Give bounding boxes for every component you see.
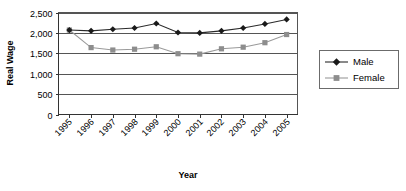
data-point-female: [197, 52, 202, 57]
x-tick-label: 1996: [75, 117, 96, 138]
y-axis-ticks: 05001,0001,5002,0002,500: [30, 9, 59, 121]
data-point-female: [219, 46, 224, 51]
x-tick-label: 2000: [162, 117, 183, 138]
y-tick-label: 2,000: [30, 29, 53, 39]
data-point-female: [241, 45, 246, 50]
x-tick-label: 2004: [249, 117, 270, 138]
y-tick-label: 500: [37, 90, 52, 100]
data-point-female: [110, 47, 115, 52]
x-tick-label: 2003: [227, 117, 248, 138]
legend-label-male: Male: [353, 56, 374, 67]
data-point-female: [154, 44, 159, 49]
chart-container: 05001,0001,5002,0002,500 199519961997199…: [0, 0, 406, 191]
x-tick-label: 2001: [184, 117, 205, 138]
real-wage-line-chart: 05001,0001,5002,0002,500 199519961997199…: [0, 0, 406, 191]
data-point-female: [284, 32, 289, 37]
y-tick-label: 2,500: [30, 9, 53, 19]
y-tick-label: 1,000: [30, 70, 53, 80]
y-tick-label: 0: [47, 111, 52, 121]
x-tick-label: 2005: [271, 117, 292, 138]
x-tick-label: 2002: [205, 117, 226, 138]
x-tick-label: 1998: [119, 117, 140, 138]
data-point-female: [175, 51, 180, 56]
legend-label-female: Female: [353, 72, 385, 83]
data-point-female: [262, 40, 267, 45]
x-tick-label: 1995: [53, 117, 74, 138]
data-point-female: [88, 45, 93, 50]
x-axis-title: Year: [178, 170, 198, 180]
legend-marker-female-icon: [334, 75, 340, 81]
x-axis-ticks: 1995199619971998199920002001200220032004…: [53, 115, 292, 139]
y-axis-title: Real Wage: [5, 40, 15, 85]
x-tick-label: 1999: [140, 117, 161, 138]
y-tick-label: 1,500: [30, 49, 53, 59]
plot-area: [59, 13, 298, 115]
legend: Male Female: [320, 51, 399, 89]
data-point-female: [132, 47, 137, 52]
x-tick-label: 1997: [97, 117, 118, 138]
